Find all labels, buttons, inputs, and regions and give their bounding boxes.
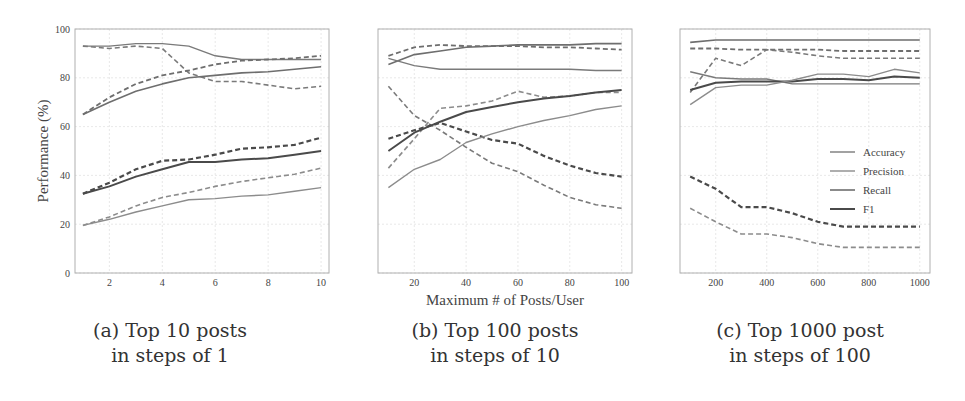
series-line-recall-solid [690, 40, 920, 42]
series-line-recall-dashed [83, 56, 321, 115]
caption-a-line1: (a) Top 10 posts [50, 318, 290, 343]
x-tick-label: 40 [461, 277, 471, 288]
y-axis-label: Performance (%) [35, 100, 52, 203]
chart-panel-c: 2004006008001000AccuracyPrecisionRecallF… [680, 29, 930, 288]
figure: 246810020406080100Performance (%)2040608… [0, 0, 965, 401]
plot-frame [75, 29, 329, 273]
y-tick-label: 20 [60, 219, 70, 230]
y-tick-label: 80 [60, 72, 70, 83]
series-line-accuracy-dashed [690, 50, 920, 93]
series-line-precision-dashed [690, 208, 920, 247]
x-tick-label: 80 [565, 277, 575, 288]
caption-b-line1: (b) Top 100 posts [365, 318, 625, 343]
y-tick-label: 100 [55, 24, 70, 35]
y-tick-label: 40 [60, 170, 70, 181]
series-line-recall-dashed [690, 49, 920, 52]
series-line-recall-solid [83, 67, 321, 115]
x-tick-label: 200 [708, 277, 723, 288]
x-tick-label: 20 [409, 277, 419, 288]
x-tick-label: 2 [107, 277, 112, 288]
x-tick-label: 10 [316, 277, 326, 288]
series-line-f1-dashed [83, 138, 321, 194]
legend-label-precision: Precision [863, 165, 904, 177]
x-tick-label: 60 [513, 277, 523, 288]
series-line-accuracy-solid [83, 44, 321, 60]
chart-panel-b: 20406080100Maximum # of Posts/User [378, 29, 632, 308]
legend-label-recall: Recall [863, 184, 891, 196]
x-tick-label: 600 [810, 277, 825, 288]
chart-panel-a: 246810020406080100Performance (%) [35, 24, 329, 289]
x-tick-label: 4 [160, 277, 165, 288]
series-line-precision-solid [690, 69, 920, 104]
x-tick-label: 6 [213, 277, 218, 288]
x-tick-label: 100 [614, 277, 629, 288]
caption-a-line2: in steps of 1 [50, 343, 290, 368]
x-axis-label: Maximum # of Posts/User [426, 292, 584, 308]
legend: AccuracyPrecisionRecallF1 [830, 146, 906, 215]
caption-b: (b) Top 100 posts in steps of 10 [365, 318, 625, 368]
series-line-f1-solid [83, 151, 321, 194]
series-line-precision-solid [83, 188, 321, 226]
caption-c-line1: (c) Top 1000 post [670, 318, 930, 343]
x-tick-label: 1000 [910, 277, 930, 288]
caption-c-line2: in steps of 100 [670, 343, 930, 368]
caption-c: (c) Top 1000 post in steps of 100 [670, 318, 930, 368]
legend-label-accuracy: Accuracy [863, 146, 906, 158]
series-line-recall-dashed [388, 45, 621, 56]
x-tick-label: 800 [861, 277, 876, 288]
y-tick-label: 0 [65, 268, 70, 279]
caption-b-line2: in steps of 10 [365, 343, 625, 368]
legend-label-f1: F1 [863, 203, 875, 215]
x-tick-label: 8 [266, 277, 271, 288]
x-tick-label: 400 [759, 277, 774, 288]
series-line-accuracy-solid [388, 58, 621, 70]
y-tick-label: 60 [60, 121, 70, 132]
caption-a: (a) Top 10 posts in steps of 1 [50, 318, 290, 368]
